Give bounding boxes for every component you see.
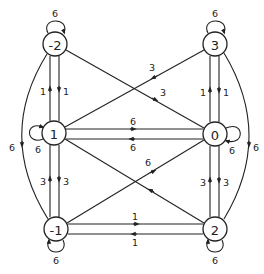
weight-3-to-1: 3 [149, 62, 155, 73]
weight-2-to-0: 3 [200, 177, 206, 188]
weight-loop-2: 6 [212, 255, 218, 266]
weight-m1-to-2: 1 [132, 211, 138, 222]
node-label-0: 0 [211, 128, 219, 143]
node-label-m2: -2 [49, 38, 62, 53]
node-1: 1 [42, 121, 66, 145]
weight-3-to-2: 6 [253, 142, 259, 153]
node-label-1: 1 [50, 127, 58, 142]
node-label-3: 3 [211, 38, 219, 53]
weight-m2-to-0: 3 [160, 87, 166, 98]
edge-3-to-2 [224, 53, 249, 219]
node-m2: -2 [43, 32, 67, 56]
weight-loop-m2: 6 [52, 8, 58, 19]
weight-1-to-m1: 3 [63, 176, 69, 187]
node-label-2: 2 [211, 223, 219, 238]
weight-1-to-m2: 1 [40, 86, 46, 97]
weight-m1-to-0: 6 [145, 157, 151, 168]
weight-3-to-0: 1 [223, 87, 229, 98]
weight-2-to-m1: 1 [132, 237, 138, 248]
weight-loop-1: 6 [35, 144, 41, 155]
node-label-m1: -1 [50, 223, 63, 238]
node-0: 0 [203, 122, 227, 146]
self-loop-3 [207, 21, 225, 33]
weight-m1-to-1: 3 [40, 176, 46, 187]
self-loop-0 [226, 126, 240, 142]
weight-m2-to-m1: 6 [9, 142, 15, 153]
node-m1: -1 [44, 217, 68, 241]
state-transition-graph: 1 1 1 1 3 3 3 3 6 6 [0, 0, 264, 274]
self-loop-2 [207, 240, 223, 252]
weight-loop-3: 6 [212, 8, 218, 19]
weight-loop-m1: 6 [53, 255, 59, 266]
weight-0-to-3: 1 [200, 87, 206, 98]
node-3: 3 [203, 32, 227, 56]
weight-m2-to-1: 1 [63, 86, 69, 97]
weight-loop-0: 6 [229, 145, 235, 156]
weight-1-to-0: 6 [130, 116, 136, 127]
weight-0-to-1: 6 [130, 142, 136, 153]
self-loop-m1 [48, 240, 64, 252]
weight-0-to-2: 3 [223, 177, 229, 188]
self-loop-1 [29, 126, 43, 140]
node-2: 2 [203, 217, 227, 241]
self-loop-m2 [47, 21, 65, 33]
